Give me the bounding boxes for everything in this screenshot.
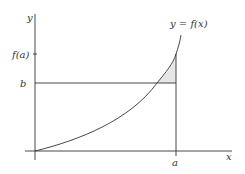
curve-label: y = f(x): [169, 18, 208, 29]
b-label: b: [20, 78, 26, 89]
diagram-canvas: y x y = f(x) f(a) b a: [0, 0, 245, 174]
shaded-region: [157, 54, 176, 83]
y-axis-label: y: [26, 12, 33, 23]
fa-label: f(a): [11, 49, 30, 60]
curve-fx: [35, 35, 181, 151]
x-axis-label: x: [226, 151, 232, 162]
a-label: a: [172, 157, 178, 168]
